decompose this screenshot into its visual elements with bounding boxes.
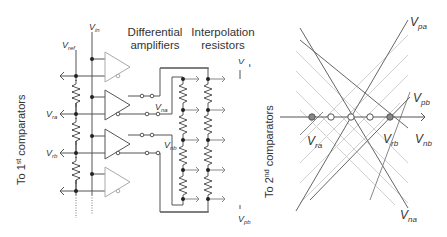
amplifiers-header-1: Differential	[128, 26, 183, 38]
resistors-header-2: resistors	[201, 39, 245, 51]
vref-label: Vref	[62, 40, 76, 51]
differential-amplifiers	[105, 52, 130, 197]
to-2nd-comparators-label: To 2nd comparators	[263, 105, 275, 198]
graph-vnb-label: Vnb	[415, 132, 432, 148]
graph-vna-label: Vna	[400, 208, 417, 224]
to-1st-comparators-label: To 1st comparators	[15, 94, 27, 185]
vpb-label: Vpb	[238, 214, 251, 225]
resistors-header-1: Interpolation	[191, 26, 254, 38]
vin-label: Vin	[89, 22, 100, 33]
reference-ladder-circuit: Differential amplifiers Interpolation re…	[15, 22, 255, 225]
graph-vra-label: Vra	[307, 134, 323, 150]
vpb-line	[310, 97, 410, 200]
vnb-label: Vnb	[164, 140, 177, 151]
graph-vrb-label: Vrb	[383, 132, 399, 148]
interpolation-taps	[183, 76, 225, 202]
vna-label: Vna	[155, 102, 168, 113]
vra-label: Vra	[46, 109, 58, 120]
graph-vpb-label: Vpb	[413, 91, 430, 107]
diagram-canvas: Differential amplifiers Interpolation re…	[0, 0, 447, 237]
interpolation-crossing-graph: To 2nd comparators	[263, 15, 432, 224]
vrb-label: Vrb	[46, 148, 58, 159]
graph-vpa-label: Vpa	[410, 15, 427, 31]
amplifiers-header-2: amplifiers	[130, 39, 179, 51]
